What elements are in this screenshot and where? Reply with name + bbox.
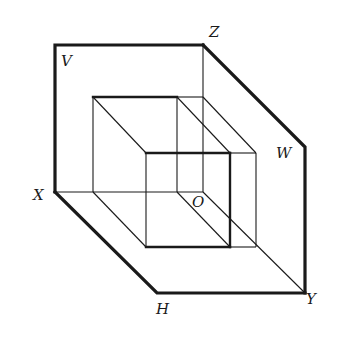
w-projection-top-edge (203, 97, 256, 153)
h-plane-border (55, 192, 305, 293)
label-z: Z (208, 23, 220, 41)
w-plane-border (203, 45, 305, 293)
label-w: W (276, 144, 293, 162)
label-v: V (61, 52, 74, 70)
label-y: Y (306, 290, 318, 308)
cube-edge-top-left (93, 97, 146, 153)
label-h: H (155, 300, 170, 318)
projection-diagram: Z V W X O H Y (0, 0, 340, 346)
label-x: X (32, 186, 45, 204)
y-axis-line (203, 192, 305, 293)
v-plane-border (55, 45, 203, 192)
label-o: O (192, 193, 204, 211)
